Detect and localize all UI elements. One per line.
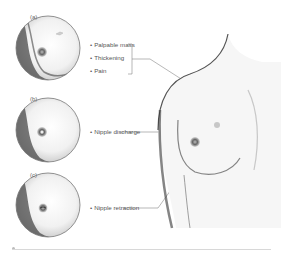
footer-divider [12, 249, 271, 250]
symptom-nipple-retraction: Nipple retraction [90, 204, 139, 211]
inset-circle-b [10, 98, 82, 172]
symptom-nipple-discharge: Nipple discharge [90, 128, 140, 135]
panel-label-a: (a) [30, 14, 37, 20]
inset-circle-a [10, 16, 82, 90]
torso-drawing [158, 34, 281, 228]
symptom-pain: Pain [90, 67, 107, 74]
symptom-thickening: Thickening [90, 54, 124, 61]
panel-label-b: (b) [30, 96, 37, 102]
symptom-palpable-mass: Palpable mass [90, 41, 135, 48]
breast-symptoms-illustration [0, 0, 281, 262]
inset-circle-c [10, 173, 82, 247]
panel-label-c: (c) [30, 172, 37, 178]
